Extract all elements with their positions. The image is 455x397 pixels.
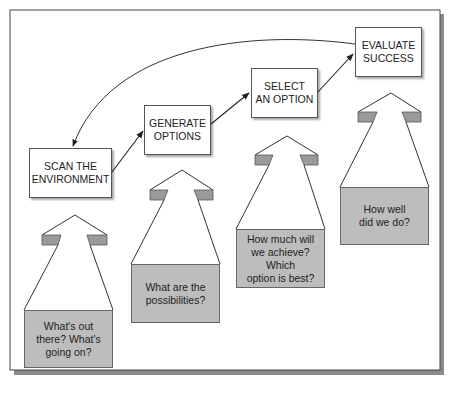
step-label-line2: ENVIRONMENT [32, 173, 110, 186]
step-evaluate-success: EVALUATE SUCCESS [355, 27, 422, 77]
step-label-line2: AN OPTION [256, 93, 314, 106]
question-box-select: How much will we achieve? Which option i… [236, 229, 325, 288]
question-line: What are the [145, 281, 205, 294]
step-label-line1: SELECT [264, 80, 305, 93]
step-label-line2: OPTIONS [154, 130, 201, 143]
question-box-scan: What's out there? What's going on? [24, 310, 113, 368]
step-select-option: SELECT AN OPTION [251, 68, 318, 118]
question-line: Which [266, 259, 295, 272]
question-line: we achieve? [251, 246, 309, 259]
step-label-line1: GENERATE [149, 117, 206, 130]
question-line: How much will [247, 233, 314, 246]
question-line: there? What's [36, 333, 100, 346]
question-line: possibilities? [146, 294, 206, 307]
question-line: option is best? [247, 272, 315, 285]
question-line: What's out [44, 320, 93, 333]
step-label-line1: EVALUATE [362, 39, 415, 52]
step-label-line2: SUCCESS [363, 52, 414, 65]
question-box-generate: What are the possibilities? [131, 264, 220, 323]
question-line: How well [363, 203, 405, 216]
step-generate-options: GENERATE OPTIONS [144, 105, 211, 155]
question-box-evaluate: How well did we do? [340, 187, 429, 245]
step-label-line1: SCAN THE [44, 160, 97, 173]
question-line: going on? [45, 346, 91, 359]
step-scan-environment: SCAN THE ENVIRONMENT [29, 148, 112, 198]
question-line: did we do? [359, 216, 410, 229]
